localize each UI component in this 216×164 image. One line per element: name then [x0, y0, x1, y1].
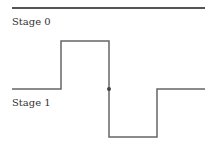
- stage-0-label: Stage 0: [12, 16, 51, 27]
- stage-1-label: Stage 1: [12, 97, 51, 108]
- junction-dot: [107, 87, 111, 91]
- diagram-canvas: Stage 0 Stage 1: [0, 0, 216, 164]
